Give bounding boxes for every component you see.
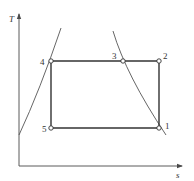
point-2-label: 2: [163, 51, 168, 61]
point-3-marker: [121, 59, 125, 63]
point-2-marker: [157, 59, 161, 63]
point-3-label: 3: [112, 51, 117, 61]
point-1-label: 1: [165, 121, 170, 131]
saturated-vapor-curve: [113, 31, 166, 135]
point-5-label: 5: [42, 124, 47, 134]
ts-diagram: T s 4 3 2 5 1: [0, 0, 194, 181]
saturated-liquid-curve: [19, 28, 61, 135]
point-4-label: 4: [40, 57, 45, 67]
point-1-marker: [157, 126, 161, 130]
point-4-marker: [49, 59, 53, 63]
x-axis-label: s: [176, 170, 180, 180]
point-5-marker: [49, 126, 53, 130]
y-axis-label: T: [9, 14, 15, 24]
